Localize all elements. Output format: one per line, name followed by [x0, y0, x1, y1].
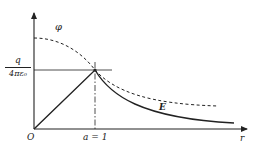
x-axis-label: r [240, 134, 244, 143]
y-tick-denominator: 4πε₀ [3, 69, 33, 79]
diagram: φ E O a = 1 r q 4πε₀ [0, 0, 256, 152]
origin-label: O [27, 133, 34, 142]
peak-point [93, 68, 96, 71]
x-tick-label: a = 1 [83, 133, 107, 142]
potential-label: φ [55, 22, 62, 32]
potential-curve [34, 38, 218, 106]
diagram-plot [0, 0, 256, 152]
field-label: E [159, 103, 166, 112]
fraction-bar [5, 67, 31, 68]
y-tick-numerator: q [3, 55, 33, 66]
y-tick-label: q 4πε₀ [3, 55, 33, 79]
field-curve [34, 70, 234, 129]
